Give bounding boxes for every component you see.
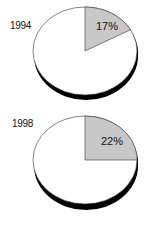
slice-label-1994: 17%	[96, 20, 118, 32]
slice-label-1998: 22%	[101, 135, 123, 147]
pie-1994-graphic: 17%	[0, 0, 146, 116]
pie-1998-graphic: 22%	[0, 108, 146, 224]
